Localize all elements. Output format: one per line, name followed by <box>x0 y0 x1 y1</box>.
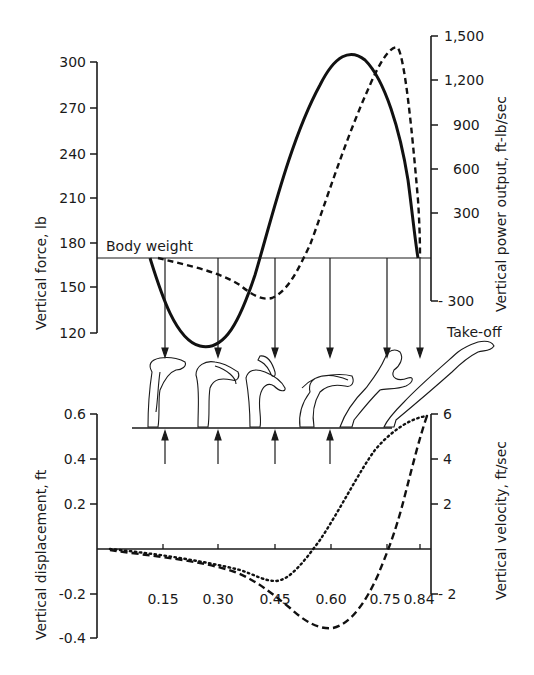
tick-label: 0.4 <box>64 451 86 467</box>
time-tick-label: 0.75 <box>369 591 400 607</box>
tick-label: 900 <box>453 117 480 133</box>
jumper-figure-2 <box>196 362 239 427</box>
tick-label: 2 <box>443 496 452 512</box>
tick-label: 300 <box>59 54 86 70</box>
body-weight-label: Body weight <box>106 238 194 254</box>
tick-label: 300 <box>453 205 480 221</box>
tick-label: 0.6 <box>64 406 86 422</box>
tick-label: -0.4 <box>59 630 86 646</box>
tick-label: 6 <box>443 406 452 422</box>
tick-label: 270 <box>59 100 86 116</box>
tick-label: 600 <box>453 161 480 177</box>
tick-label: - 300 <box>438 293 474 309</box>
bottom-right-axis-label: Vertical velocity, ft/sec <box>493 441 509 600</box>
phase-arrows-down <box>162 258 423 357</box>
figure: 300 270 240 210 180 150 120 Vertical for… <box>0 0 534 675</box>
tick-label: 150 <box>59 279 86 295</box>
tick-label: 4 <box>443 451 452 467</box>
tick-label: 180 <box>59 235 86 251</box>
tick-label: 120 <box>59 325 86 341</box>
jumper-figure-1 <box>148 357 185 427</box>
jumper-sequence <box>132 341 494 428</box>
tick-label: - 2 <box>438 586 456 602</box>
jumper-figure-3 <box>246 356 285 427</box>
time-tick-label: 0.84 <box>403 591 434 607</box>
tick-label: 0.2 <box>64 496 86 512</box>
top-left-ticks <box>90 62 97 333</box>
tick-label: -0.2 <box>59 586 86 602</box>
time-tick-label: 0.60 <box>315 591 346 607</box>
tick-label: 1,500 <box>444 28 484 44</box>
tick-label: 210 <box>59 190 86 206</box>
tick-label: 1,200 <box>444 72 484 88</box>
time-tick-label: 0.30 <box>202 591 233 607</box>
phase-arrows-up <box>162 431 333 464</box>
bottom-panel: 0.6 0.4 0.2 -0.2 -0.4 Vertical displacem… <box>33 406 509 646</box>
time-tick-label: 0.15 <box>147 591 178 607</box>
jumper-figure-4 <box>300 375 354 428</box>
top-left-axis-label: Vertical force, lb <box>33 216 49 330</box>
take-off-label: Take-off <box>446 324 502 340</box>
top-panel: 300 270 240 210 180 150 120 Vertical for… <box>33 28 509 357</box>
bottom-left-axis-label: Vertical displacement, ft <box>33 469 49 640</box>
force-curve <box>150 54 418 346</box>
top-right-axis-label: Vertical power output, ft-lb/sec <box>493 96 509 312</box>
tick-label: 240 <box>59 146 86 162</box>
